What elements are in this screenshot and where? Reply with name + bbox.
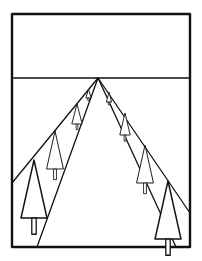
left-tree-row [21,89,91,234]
tree-canopy [137,145,154,183]
tree-canopy [72,104,82,124]
right-tree-4 [155,181,181,255]
right-tree-2 [120,113,130,141]
right-tree-1 [106,92,111,105]
tree-canopy [86,89,91,98]
right-tree-row [106,92,181,255]
tree-trunk [124,135,126,141]
right-tree-3 [137,145,154,194]
tree-trunk [32,218,36,234]
tree-trunk [166,239,170,255]
tree-trunk [144,183,147,194]
tree-trunk [108,102,110,105]
perspective-diagram [0,0,202,261]
left-road-edge [37,78,98,247]
left-tree-4 [21,160,47,234]
tree-canopy [21,160,47,218]
tree-trunk [54,169,57,180]
tree-trunk [88,98,90,101]
tree-trunk [76,124,78,130]
